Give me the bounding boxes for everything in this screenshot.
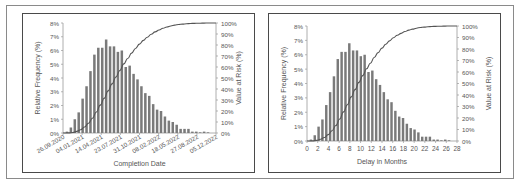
frequency-bar [105, 40, 108, 134]
y-tick-label: 8% [50, 20, 59, 27]
frequency-bar [417, 132, 419, 141]
frequency-bar [444, 140, 446, 141]
frequency-bar [74, 119, 77, 133]
y2-tick-label: 100% [462, 23, 478, 30]
frequency-bar [117, 52, 120, 133]
frequency-bar [394, 111, 396, 141]
y-tick-label: 2% [50, 102, 59, 109]
y2-tick-label: 50% [221, 75, 234, 82]
frequency-bar [152, 104, 155, 133]
y-tick-label: 6% [294, 51, 303, 58]
frequency-bar [172, 122, 175, 133]
x-tick-label: 8 [348, 145, 352, 152]
frequency-bar [124, 67, 127, 133]
frequency-bar [436, 140, 438, 141]
y2-tick-label: 70% [221, 53, 234, 60]
frequency-bar [340, 52, 342, 141]
frequency-bar [144, 93, 147, 133]
frequency-bar [375, 79, 377, 141]
frequency-bar [97, 48, 100, 133]
x-tick-label: 12 [368, 145, 376, 152]
frequency-bar [333, 76, 335, 141]
frequency-bar [89, 71, 92, 133]
y2-axis-title: Value at Risk (%) [235, 51, 243, 105]
frequency-bar [425, 137, 427, 141]
frequency-bar [386, 99, 388, 141]
frequency-bar [203, 132, 206, 133]
frequency-bar [93, 55, 96, 133]
y2-tick-label: 0% [221, 130, 230, 137]
frequency-bar [344, 52, 346, 141]
frequency-bar [132, 74, 135, 133]
y2-tick-label: 60% [462, 69, 475, 76]
chart-delay-months: 0%1%2%3%4%5%6%7%8%0%10%20%30%40%50%60%70… [269, 14, 502, 174]
y2-tick-label: 50% [462, 80, 475, 87]
x-axis-title: Delay in Months [357, 158, 408, 166]
y2-tick-label: 60% [221, 64, 234, 71]
frequency-bar [379, 85, 381, 141]
x-tick-label: 14 [378, 145, 386, 152]
frequency-bar [406, 124, 408, 141]
frequency-bar [348, 43, 350, 141]
y-tick-label: 5% [294, 66, 303, 73]
frequency-bar [175, 125, 178, 133]
y2-axis-title: Value at Risk (%) [485, 57, 493, 111]
frequency-bar [448, 140, 450, 141]
frequency-bar [363, 55, 365, 141]
y-tick-label: 7% [294, 37, 303, 44]
y2-tick-label: 30% [462, 103, 475, 110]
y2-tick-label: 40% [221, 86, 234, 93]
frequency-bar [429, 137, 431, 141]
frequency-bar [148, 96, 151, 133]
y-axis-title: Relative Frequency (%) [280, 47, 288, 120]
frequency-bar [187, 129, 190, 133]
y2-tick-label: 80% [221, 42, 234, 49]
y2-tick-label: 70% [462, 57, 475, 64]
frequency-bar [121, 51, 124, 134]
y-tick-label: 1% [294, 123, 303, 130]
x-tick-label: 2 [316, 145, 320, 152]
x-axis-title: Completion Date [113, 160, 165, 168]
y2-tick-label: 20% [462, 115, 475, 122]
y-tick-label: 5% [50, 61, 59, 68]
frequency-bar [433, 140, 435, 141]
y-tick-label: 1% [50, 116, 59, 123]
frequency-bar [164, 117, 167, 134]
frequency-bar [199, 132, 202, 133]
y2-tick-label: 90% [462, 34, 475, 41]
frequency-bar [183, 129, 186, 133]
frequency-bar [402, 118, 404, 141]
x-tick-label: 18 [400, 145, 408, 152]
frequency-bar [191, 132, 194, 133]
y-axis-title: Relative Frequency (%) [34, 41, 42, 114]
chart-panel-completion-date: 0%1%2%3%4%5%6%7%8%0%10%20%30%40%50%60%70… [22, 13, 255, 173]
frequency-bar [390, 102, 392, 141]
frequency-bar [356, 50, 358, 141]
frequency-bar [421, 137, 423, 141]
x-tick-label: 24 [432, 145, 440, 152]
frequency-bar [317, 127, 319, 141]
x-tick-label: 22 [421, 145, 429, 152]
y-tick-label: 2% [294, 109, 303, 116]
frequency-bar [160, 111, 163, 133]
y2-tick-label: 30% [221, 97, 234, 104]
y2-tick-label: 100% [221, 20, 237, 27]
frequency-bar [128, 66, 131, 133]
frequency-bar [156, 110, 159, 133]
frequency-bar [101, 48, 104, 133]
y2-tick-label: 10% [221, 119, 234, 126]
frequency-bar [113, 46, 116, 133]
x-tick-label: 6 [337, 145, 341, 152]
frequency-bar [440, 140, 442, 141]
frequency-bar [207, 132, 210, 133]
x-tick-label: 10 [357, 145, 365, 152]
y2-tick-label: 80% [462, 46, 475, 53]
frequency-bar [136, 79, 139, 133]
y2-tick-label: 10% [462, 126, 475, 133]
y-tick-label: 0% [294, 138, 303, 145]
y-tick-label: 7% [50, 33, 59, 40]
frequency-bar [140, 86, 143, 133]
frequency-bar [337, 59, 339, 141]
frequency-bar [398, 117, 400, 141]
x-tick-label: 26 [443, 145, 451, 152]
